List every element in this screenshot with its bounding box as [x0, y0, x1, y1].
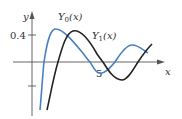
series-y0-label: Y0(x)	[58, 11, 83, 24]
series-y1-label: Y1(x)	[92, 30, 117, 43]
axes	[13, 11, 165, 116]
y-tick-label-0.4: 0.4	[10, 30, 26, 41]
bessel-chart: y x 0.4 5 Y0(x) Y1(x)	[0, 0, 182, 119]
x-axis-label: x	[165, 66, 171, 77]
x-axis-arrow-icon	[157, 60, 165, 65]
y-axis-label: y	[22, 11, 29, 22]
y-axis-arrow-icon	[30, 11, 35, 19]
